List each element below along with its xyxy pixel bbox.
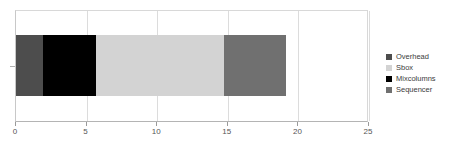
legend-swatch-mixcolumns bbox=[386, 76, 392, 82]
x-axis-tick bbox=[227, 122, 228, 126]
legend-label-sequencer: Sequencer bbox=[396, 85, 432, 94]
y-axis-tick bbox=[10, 66, 15, 67]
chart-legend: Overhead Sbox Mixcolumns Sequencer bbox=[386, 51, 436, 95]
x-axis-tick-label: 20 bbox=[285, 127, 309, 137]
legend-swatch-sbox bbox=[386, 65, 392, 71]
x-axis-tick-label: 10 bbox=[144, 127, 168, 137]
legend-swatch-sequencer bbox=[386, 87, 392, 93]
bar-track bbox=[16, 35, 367, 96]
x-axis-tick bbox=[15, 122, 16, 126]
legend-item-sbox: Sbox bbox=[386, 62, 436, 73]
stacked-bar-chart: 0510152025 Overhead Sbox Mixcolumns Sequ… bbox=[0, 0, 449, 156]
legend-label-mixcolumns: Mixcolumns bbox=[396, 74, 436, 83]
x-axis-tick-label: 15 bbox=[215, 127, 239, 137]
bar-segment-overhead bbox=[16, 35, 43, 96]
plot-area bbox=[15, 10, 368, 122]
bar-segment-sequencer bbox=[224, 35, 286, 96]
gridline bbox=[369, 11, 370, 121]
x-axis-tick bbox=[156, 122, 157, 126]
legend-item-sequencer: Sequencer bbox=[386, 84, 436, 95]
legend-swatch-overhead bbox=[386, 54, 392, 60]
x-axis-tick-label: 0 bbox=[3, 127, 27, 137]
x-axis-tick bbox=[297, 122, 298, 126]
legend-item-mixcolumns: Mixcolumns bbox=[386, 73, 436, 84]
legend-label-sbox: Sbox bbox=[396, 63, 413, 72]
bar-segment-mixcolumns bbox=[43, 35, 97, 96]
x-axis-tick bbox=[368, 122, 369, 126]
legend-item-overhead: Overhead bbox=[386, 51, 436, 62]
x-axis-tick bbox=[86, 122, 87, 126]
bar-segment-sbox bbox=[96, 35, 223, 96]
legend-label-overhead: Overhead bbox=[396, 52, 429, 61]
x-axis-tick-label: 25 bbox=[356, 127, 380, 137]
x-axis-tick-label: 5 bbox=[74, 127, 98, 137]
